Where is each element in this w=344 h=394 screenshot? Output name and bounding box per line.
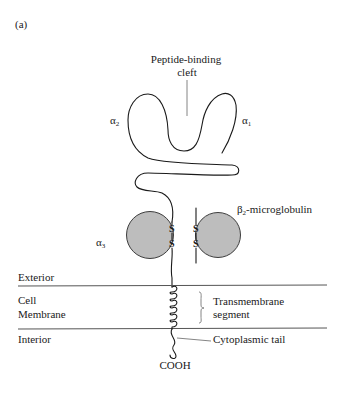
exterior-label: Exterior <box>18 271 54 283</box>
transmembrane-brace <box>199 292 204 323</box>
diagram-canvas: (a) Peptide-binding cleft α2 α1 α3 β2-mi… <box>0 0 344 394</box>
disulfide-s-beta2m-2: S <box>193 238 199 249</box>
transmembrane-label-line1: Transmembrane <box>213 295 284 307</box>
cooh-terminus-label: COOH <box>159 359 190 371</box>
alpha1-alpha2-chain <box>128 93 239 222</box>
alpha1-label: α1 <box>242 114 252 128</box>
mhc-class-i-diagram: (a) Peptide-binding cleft α2 α1 α3 β2-mi… <box>0 0 344 394</box>
transmembrane-label-line2: segment <box>213 308 250 320</box>
membrane-outer-boundary <box>18 285 327 286</box>
cytoplasmic-tail <box>170 329 176 359</box>
cell-membrane-label-line2: Membrane <box>18 308 66 320</box>
cleft-label-line2: cleft <box>177 66 197 78</box>
alpha2-label: α2 <box>110 114 120 128</box>
beta2-microglobulin-domain <box>196 213 241 258</box>
cleft-label-line1: Peptide-binding <box>151 53 222 65</box>
cytoplasmic-tail-label: Cytoplasmic tail <box>213 333 285 345</box>
cytoplasmic-tail-leader <box>177 338 211 341</box>
alpha3-label: α3 <box>96 236 106 250</box>
cell-membrane-label-line1: Cell <box>18 294 36 306</box>
interior-label: Interior <box>18 333 51 345</box>
panel-label: (a) <box>15 18 28 31</box>
alpha-chain-to-membrane <box>171 248 172 287</box>
beta2m-label: β2-microglobulin <box>237 203 313 217</box>
disulfide-s-beta2m-1: S <box>193 223 199 234</box>
alpha3-domain <box>127 212 174 259</box>
disulfide-s-alpha3-1: S <box>169 223 175 234</box>
disulfide-s-alpha3-2: S <box>169 238 175 249</box>
transmembrane-helix <box>170 286 177 329</box>
